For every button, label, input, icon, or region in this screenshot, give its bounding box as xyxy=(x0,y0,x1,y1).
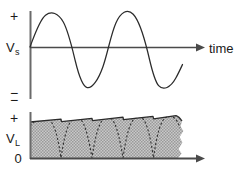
bottom-plot-negative-marker: − xyxy=(10,92,18,108)
top-plot-y-axis-label-subscript: s xyxy=(15,47,20,57)
rectifier-waveform-figure: + V s − time − + V L 0 xyxy=(0,0,242,179)
bottom-plot-zero-marker: 0 xyxy=(14,151,21,166)
waveform-svg: + V s − time − + V L 0 xyxy=(0,0,242,179)
bottom-plot-y-axis-label-subscript: L xyxy=(15,138,20,148)
time-axis-label: time xyxy=(209,41,234,56)
load-voltage-shaded-region xyxy=(30,116,183,158)
top-plot-y-axis-label-main: V xyxy=(6,40,15,55)
bottom-plot-positive-marker: + xyxy=(10,110,18,126)
top-plot-positive-marker: + xyxy=(10,8,18,24)
bottom-plot-y-axis-label-main: V xyxy=(6,131,15,146)
